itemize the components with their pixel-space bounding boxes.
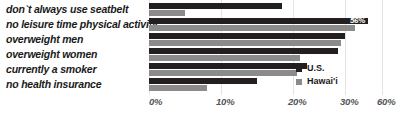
legend-label-us: U.S. xyxy=(307,63,325,74)
bar-group-3 xyxy=(149,48,385,62)
category-axis: don`t always use seatbelt no leisure tim… xyxy=(0,0,148,95)
category-label-4: currently a smoker xyxy=(0,64,144,75)
bar-hawaii-3 xyxy=(149,55,300,61)
bar-value-us-1: 56% xyxy=(350,17,365,25)
bar-us-3 xyxy=(149,48,338,54)
bar-group-0 xyxy=(149,3,385,17)
tick-label-2: 20% xyxy=(288,96,306,107)
bar-us-4 xyxy=(149,63,307,69)
bar-chart: don`t always use seatbelt no leisure tim… xyxy=(0,0,402,113)
bar-hawaii-1 xyxy=(149,25,355,31)
bar-hawaii-2 xyxy=(149,40,341,46)
legend-item-us: U.S. xyxy=(296,64,366,75)
legend: U.S. Hawai'i xyxy=(296,64,366,90)
category-label-5: no health insurance xyxy=(0,79,144,90)
legend-item-hawaii: Hawai'i xyxy=(296,77,366,88)
bar-hawaii-5 xyxy=(149,85,207,91)
tick-label-3: 30% xyxy=(340,96,358,107)
bar-us-0 xyxy=(149,3,282,9)
bar-us-1: 56% xyxy=(149,18,368,24)
category-label-1: no leisure time physical activity xyxy=(0,19,144,30)
tick-label-4: 60% xyxy=(377,96,395,107)
tick-label-1: 10% xyxy=(216,96,234,107)
legend-swatch-hawaii xyxy=(296,79,302,85)
value-axis: 0% 10% 20% 30% 60% xyxy=(149,96,402,113)
bar-hawaii-4 xyxy=(149,70,297,76)
bar-us-5 xyxy=(149,78,257,84)
bar-us-2 xyxy=(149,33,345,39)
category-label-3: overweight women xyxy=(0,49,144,60)
category-label-2: overweight men xyxy=(0,34,144,45)
legend-label-hawaii: Hawai'i xyxy=(307,76,338,87)
tick-label-0: 0% xyxy=(149,96,162,107)
bar-group-2 xyxy=(149,33,385,47)
bar-group-1: 56% xyxy=(149,18,385,32)
category-label-0: don`t always use seatbelt xyxy=(0,4,144,15)
legend-swatch-us xyxy=(296,66,302,72)
bar-hawaii-0 xyxy=(149,10,185,16)
